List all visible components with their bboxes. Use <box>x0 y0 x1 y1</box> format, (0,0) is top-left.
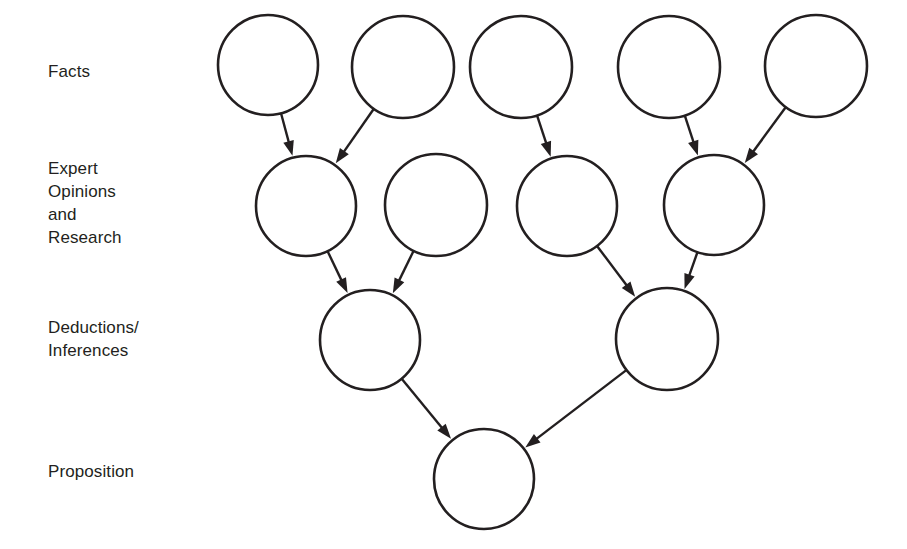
nodes-layer <box>218 15 867 529</box>
node-deduction-1[interactable] <box>320 290 420 390</box>
row-label-expert-opinions-and-research: Expert Opinions and Research <box>48 157 122 249</box>
edge-arrowhead-icon <box>393 277 404 293</box>
edge-line <box>532 369 627 442</box>
edge-line <box>750 106 787 156</box>
node-expert-2[interactable] <box>385 154 487 256</box>
diagram-canvas: Facts Expert Opinions and Research Deduc… <box>0 0 907 549</box>
node-fact-3[interactable] <box>470 16 572 118</box>
edge-arrowhead-icon <box>283 140 293 156</box>
edge-arrowhead-icon <box>336 277 347 293</box>
node-expert-3[interactable] <box>517 156 617 256</box>
node-fact-1[interactable] <box>218 15 318 115</box>
node-expert-1[interactable] <box>256 156 356 256</box>
edge-arrowhead-icon <box>541 141 551 157</box>
edge-line <box>596 245 630 290</box>
edge-arrowhead-icon <box>688 140 698 156</box>
edge-arrowhead-icon <box>336 148 349 163</box>
edge-arrowhead-icon <box>684 273 694 289</box>
edge-line <box>401 378 446 433</box>
edge-arrowhead-icon <box>622 281 635 296</box>
node-fact-5[interactable] <box>765 15 867 117</box>
edge-arrowhead-icon <box>525 434 540 447</box>
edge-line <box>340 108 374 157</box>
row-label-facts: Facts <box>48 60 90 83</box>
row-label-deductions-inferences: Deductions/ Inferences <box>48 316 139 362</box>
edge-arrowhead-icon <box>745 148 758 163</box>
node-fact-4[interactable] <box>618 16 720 118</box>
diagram-svg <box>0 0 907 549</box>
row-label-proposition: Proposition <box>48 460 134 483</box>
node-deduction-2[interactable] <box>616 288 718 390</box>
node-proposition-1[interactable] <box>434 429 534 529</box>
node-fact-2[interactable] <box>352 16 454 118</box>
node-expert-4[interactable] <box>664 155 764 255</box>
